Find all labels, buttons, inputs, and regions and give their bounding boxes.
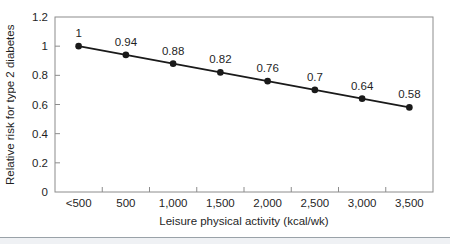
- data-point-label: 0.76: [256, 62, 278, 74]
- x-tick-label: 1,000: [159, 197, 188, 209]
- y-tick-label: 0.8: [32, 69, 48, 81]
- data-point-label: 0.94: [115, 36, 138, 48]
- x-axis-title: Leisure physical activity (kcal/wk): [55, 215, 433, 227]
- data-point: [217, 69, 224, 76]
- x-tick-label: 2,000: [253, 197, 282, 209]
- y-tick-label: 0: [42, 186, 48, 198]
- data-point-label: 1: [75, 27, 81, 39]
- x-tick-label: 1,500: [206, 197, 235, 209]
- y-tick-label: 1: [42, 40, 48, 52]
- data-point: [359, 95, 366, 102]
- data-point-label: 0.82: [209, 53, 231, 65]
- data-point: [170, 60, 177, 67]
- data-point-label: 0.64: [351, 80, 374, 92]
- data-point: [406, 104, 413, 111]
- y-tick-label: 0.6: [32, 99, 48, 111]
- data-point-label: 0.7: [307, 71, 323, 83]
- footer-strip: [0, 238, 450, 244]
- data-point: [123, 52, 130, 59]
- chart-figure: Relative risk for type 2 diabetes 00.20.…: [0, 0, 450, 244]
- y-tick-label: 1.2: [32, 11, 48, 23]
- line-chart: 00.20.40.60.811.2<5005001,0001,5002,0002…: [0, 0, 450, 244]
- x-tick-label: 2,500: [300, 197, 329, 209]
- data-point: [264, 78, 271, 85]
- x-tick-label: 3,500: [395, 197, 424, 209]
- data-point: [312, 87, 319, 94]
- x-tick-label: <500: [66, 197, 92, 209]
- x-tick-label: 500: [116, 197, 135, 209]
- data-point-label: 0.88: [162, 45, 184, 57]
- plot-border: [55, 17, 433, 192]
- data-point-label: 0.58: [398, 88, 420, 100]
- y-tick-label: 0.4: [32, 128, 49, 140]
- data-point: [75, 43, 82, 50]
- y-tick-label: 0.2: [32, 157, 48, 169]
- x-tick-label: 3,000: [348, 197, 377, 209]
